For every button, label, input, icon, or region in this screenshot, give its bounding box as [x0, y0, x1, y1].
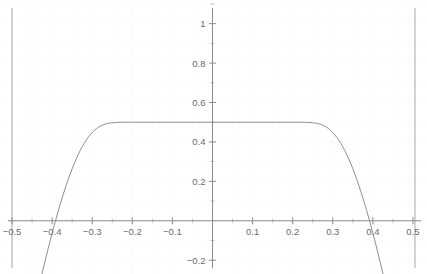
axis-lines: [8, 8, 421, 268]
y-tick-label: 0.4: [192, 136, 205, 147]
y-tick-label: 0.8: [192, 58, 205, 69]
chart-canvas: −0.5−0.4−0.3−0.2−0.10.10.20.30.40.5−0.20…: [0, 0, 427, 274]
x-tick-label: 0.5: [406, 226, 419, 237]
x-tick-label: −0.4: [43, 226, 62, 237]
x-tick-label: −0.1: [163, 226, 182, 237]
y-tick-label: −0.2: [187, 255, 206, 266]
y-tick-label: 0.6: [192, 97, 205, 108]
x-tick-label: 0.2: [286, 226, 299, 237]
grid-lines: [0, 0, 427, 274]
chart-figure: −0.5−0.4−0.3−0.2−0.10.10.20.30.40.5−0.20…: [0, 0, 427, 274]
x-tick-label: 0.3: [326, 226, 339, 237]
x-tick-label: 0.1: [246, 226, 259, 237]
x-tick-label: −0.2: [123, 226, 142, 237]
x-tick-label: −0.3: [83, 226, 102, 237]
x-tick-label: 0.4: [366, 226, 379, 237]
y-tick-label: 1: [200, 18, 205, 29]
y-tick-label: 0.2: [192, 176, 205, 187]
x-tick-label: −0.5: [3, 226, 22, 237]
